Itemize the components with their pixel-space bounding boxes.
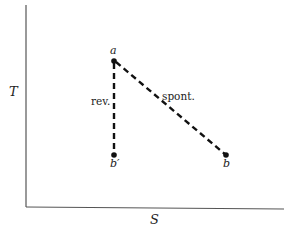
- rev-label: rev.: [91, 95, 110, 107]
- x-axis-label: S: [150, 212, 159, 227]
- point-b-label: b: [223, 157, 230, 170]
- point-a: [111, 58, 117, 64]
- y-axis-label: T: [9, 84, 18, 99]
- path-spontaneous: [116, 62, 226, 155]
- ts-diagram: [0, 0, 286, 228]
- point-b-prime-label: b′: [110, 157, 120, 170]
- spont-label: spont.: [162, 90, 195, 102]
- point-a-label: a: [110, 44, 117, 57]
- x-axis: [26, 207, 284, 209]
